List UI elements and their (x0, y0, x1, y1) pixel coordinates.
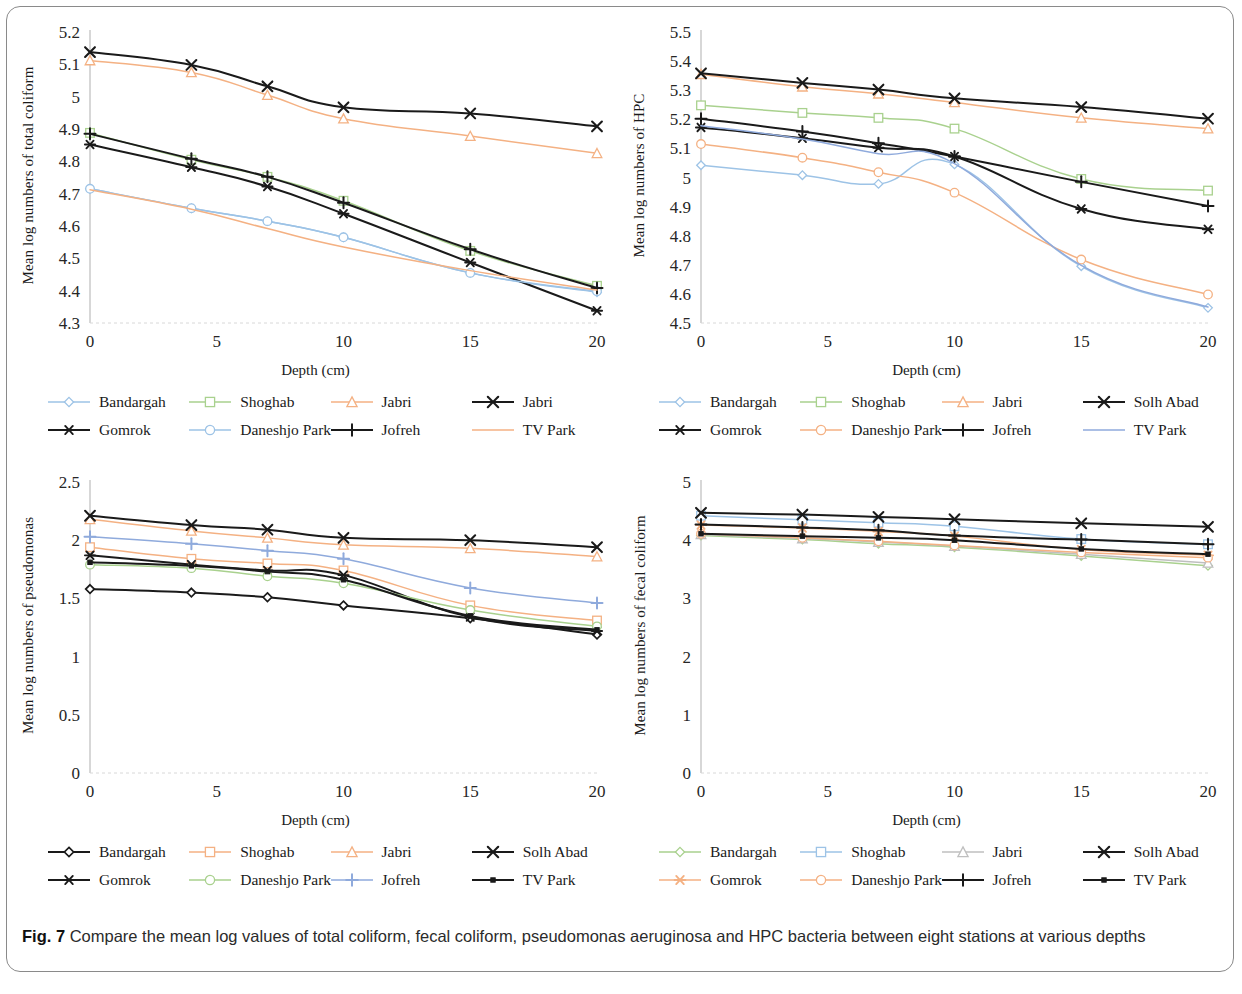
legend-item-bandargah[interactable]: Bandargah (657, 388, 798, 416)
legend-row: BandargahShoghabJabriSolh Abad (657, 388, 1222, 416)
data-point (697, 140, 706, 149)
legend-label: Jofreh (382, 421, 421, 439)
y-tick-label: 4.5 (59, 249, 80, 268)
x-tick-label: 10 (946, 332, 963, 351)
x-tick-label: 15 (462, 332, 479, 351)
y-tick-label: 5.3 (670, 81, 691, 100)
legend-marker-square-icon (798, 845, 844, 859)
legend-marker-asterisk-icon (657, 423, 703, 437)
y-tick-label: 4.7 (670, 256, 692, 275)
legend-item-solh-abad[interactable]: Solh Abad (470, 838, 588, 866)
legend-item-gomrok[interactable]: Gomrok (657, 416, 798, 444)
legend-label: Shoghab (240, 393, 294, 411)
series-bandargah (86, 585, 602, 639)
data-point (950, 124, 959, 133)
legend-item-daneshjo-park[interactable]: Daneshjo Park (798, 866, 939, 894)
legend-item-jabri[interactable]: Jabri (940, 838, 1081, 866)
data-point (798, 109, 807, 118)
data-point (699, 532, 703, 536)
legend-item-shoghab[interactable]: Shoghab (798, 388, 939, 416)
y-tick-label: 4.9 (670, 198, 691, 217)
chart-panel-total-coliform: Mean log numbers of total coliform 4.34.… (10, 10, 621, 460)
legend-hpc: BandargahShoghabJabriSolh AbadGomrokDane… (657, 388, 1222, 444)
legend-label: Gomrok (710, 871, 762, 889)
legend-item-jofreh[interactable]: Jofreh (329, 866, 470, 894)
chart-panel-fecal-coliform: Mean log numbers of fecal coliform 01234… (621, 460, 1232, 910)
series-line (701, 127, 1208, 229)
legend-item-solh-abad[interactable]: Solh Abad (1081, 388, 1199, 416)
y-tick-label: 5.5 (670, 23, 691, 42)
legend-item-shoghab[interactable]: Shoghab (187, 838, 328, 866)
data-point (263, 217, 272, 226)
data-point (187, 588, 196, 597)
legend-item-shoghab[interactable]: Shoghab (187, 388, 328, 416)
x-tick-label: 0 (86, 332, 95, 351)
data-point (88, 560, 92, 564)
legend-item-daneshjo-park[interactable]: Daneshjo Park (798, 416, 939, 444)
x-tick-label: 0 (86, 782, 95, 801)
legend-item-tv-park[interactable]: TV Park (470, 866, 576, 894)
legend-item-bandargah[interactable]: Bandargah (46, 388, 187, 416)
data-point (697, 161, 706, 170)
legend-item-tv-park[interactable]: TV Park (1081, 866, 1187, 894)
legend-marker-asterisk-icon (46, 423, 92, 437)
x-tick-label: 15 (462, 782, 479, 801)
y-tick-label: 4.4 (59, 282, 81, 301)
legend-item-gomrok[interactable]: Gomrok (46, 416, 187, 444)
legend-item-daneshjo-park[interactable]: Daneshjo Park (187, 866, 328, 894)
plot-area-2: 00.511.522.505101520 (90, 478, 603, 777)
legend-item-gomrok[interactable]: Gomrok (657, 866, 798, 894)
legend-item-jofreh[interactable]: Jofreh (940, 866, 1081, 894)
legend-item-jofreh[interactable]: Jofreh (329, 416, 470, 444)
x-tick-label: 0 (697, 782, 706, 801)
series-line (90, 145, 597, 311)
legend-item-tv-park[interactable]: TV Park (1081, 416, 1187, 444)
legend-item-jabri[interactable]: Jabri (329, 388, 470, 416)
legend-item-jofreh[interactable]: Jofreh (940, 416, 1081, 444)
legend-item-solh-abad[interactable]: Solh Abad (1081, 838, 1199, 866)
legend-item-jabri[interactable]: Jabri (940, 388, 1081, 416)
legend-item-daneshjo-park[interactable]: Daneshjo Park (187, 416, 328, 444)
legend-label: TV Park (523, 421, 576, 439)
data-point (86, 185, 95, 194)
legend-marker-triangle-icon (940, 395, 986, 409)
plot-area-0: 4.34.44.54.64.74.84.955.15.205101520 (90, 28, 603, 327)
series-gomrok (85, 141, 602, 315)
legend-item-gomrok[interactable]: Gomrok (46, 866, 187, 894)
data-point (341, 578, 345, 582)
legend-label: Gomrok (710, 421, 762, 439)
y-tick-label: 5.2 (59, 23, 80, 42)
y-tick-label: 1 (72, 648, 81, 667)
legend-item-bandargah[interactable]: Bandargah (657, 838, 798, 866)
legend-marker-cross-icon (1081, 395, 1127, 409)
data-point (1204, 304, 1213, 313)
plot-wrap-3: Mean log numbers of fecal coliform 01234… (621, 460, 1232, 835)
data-point (952, 538, 956, 542)
legend-row: GomrokDaneshjo ParkJofrehTV Park (46, 416, 611, 444)
legend-marker-circle-icon (187, 423, 233, 437)
figure-caption-text: Compare the mean log values of total col… (65, 927, 1145, 945)
data-point (263, 593, 272, 602)
legend-item-jabri[interactable]: Jabri (329, 838, 470, 866)
plot-area-3: 01234505101520 (701, 478, 1214, 777)
data-point (1204, 186, 1213, 195)
legend-label: Daneshjo Park (851, 871, 942, 889)
chart-panel-pseudomonas: Mean log numbers of pseudomonas 00.511.5… (10, 460, 621, 910)
legend-item-tv-park[interactable]: TV Park (470, 416, 576, 444)
x-tick-label: 0 (697, 332, 706, 351)
legend-marker-dot-icon (470, 873, 516, 887)
legend-item-bandargah[interactable]: Bandargah (46, 838, 187, 866)
line-chart-total-coliform: 4.34.44.54.64.74.84.955.15.205101520 (90, 28, 603, 327)
y-tick-label: 4 (683, 531, 692, 550)
legend-row: BandargahShoghabJabriSolh Abad (46, 838, 611, 866)
legend-label: Shoghab (851, 843, 905, 861)
y-tick-label: 5 (72, 88, 81, 107)
legend-item-shoghab[interactable]: Shoghab (798, 838, 939, 866)
legend-item-jabri[interactable]: Jabri (470, 388, 553, 416)
data-point (592, 598, 603, 609)
data-point (874, 114, 883, 123)
data-point (696, 113, 707, 124)
x-tick-label: 10 (946, 782, 963, 801)
data-point (950, 188, 959, 197)
x-tick-label: 5 (824, 332, 833, 351)
